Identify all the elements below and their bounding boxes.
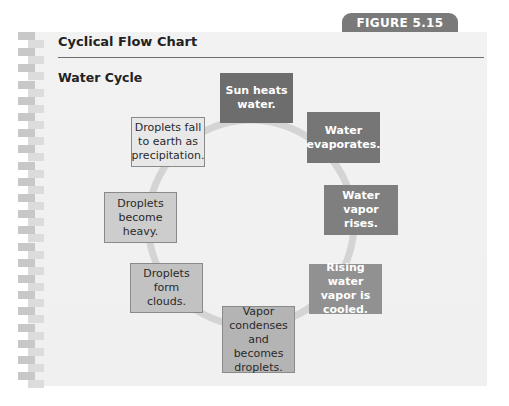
cycle-step-vapor-condenses: Vapor condenses and becomes droplets.: [222, 306, 295, 373]
cycle-step-water-vapor-rises: Water vapor rises.: [324, 185, 398, 235]
step-label: Droplets become heavy.: [108, 197, 173, 239]
step-label: Droplets form clouds.: [134, 267, 199, 309]
cycle-step-vapor-cooled: Rising water vapor is cooled.: [309, 264, 382, 314]
cycle-step-droplets-form-clouds: Droplets form clouds.: [130, 263, 203, 313]
step-label: Vapor condenses and becomes droplets.: [226, 305, 291, 375]
cycle-step-sun-heats-water: Sun heats water.: [220, 73, 293, 123]
cycle-step-droplets-fall: Droplets fall to earth as precipitation.: [131, 117, 205, 167]
cycle-step-droplets-become-heavy: Droplets become heavy.: [104, 192, 177, 243]
cycle-step-water-evaporates: Water evaporates.: [307, 112, 380, 163]
step-label: Droplets fall to earth as precipitation.: [132, 121, 205, 163]
step-label: Water evaporates.: [307, 124, 381, 152]
step-label: Rising water vapor is cooled.: [313, 261, 378, 317]
step-label: Sun heats water.: [224, 84, 289, 112]
step-label: Water vapor rises.: [328, 189, 394, 231]
